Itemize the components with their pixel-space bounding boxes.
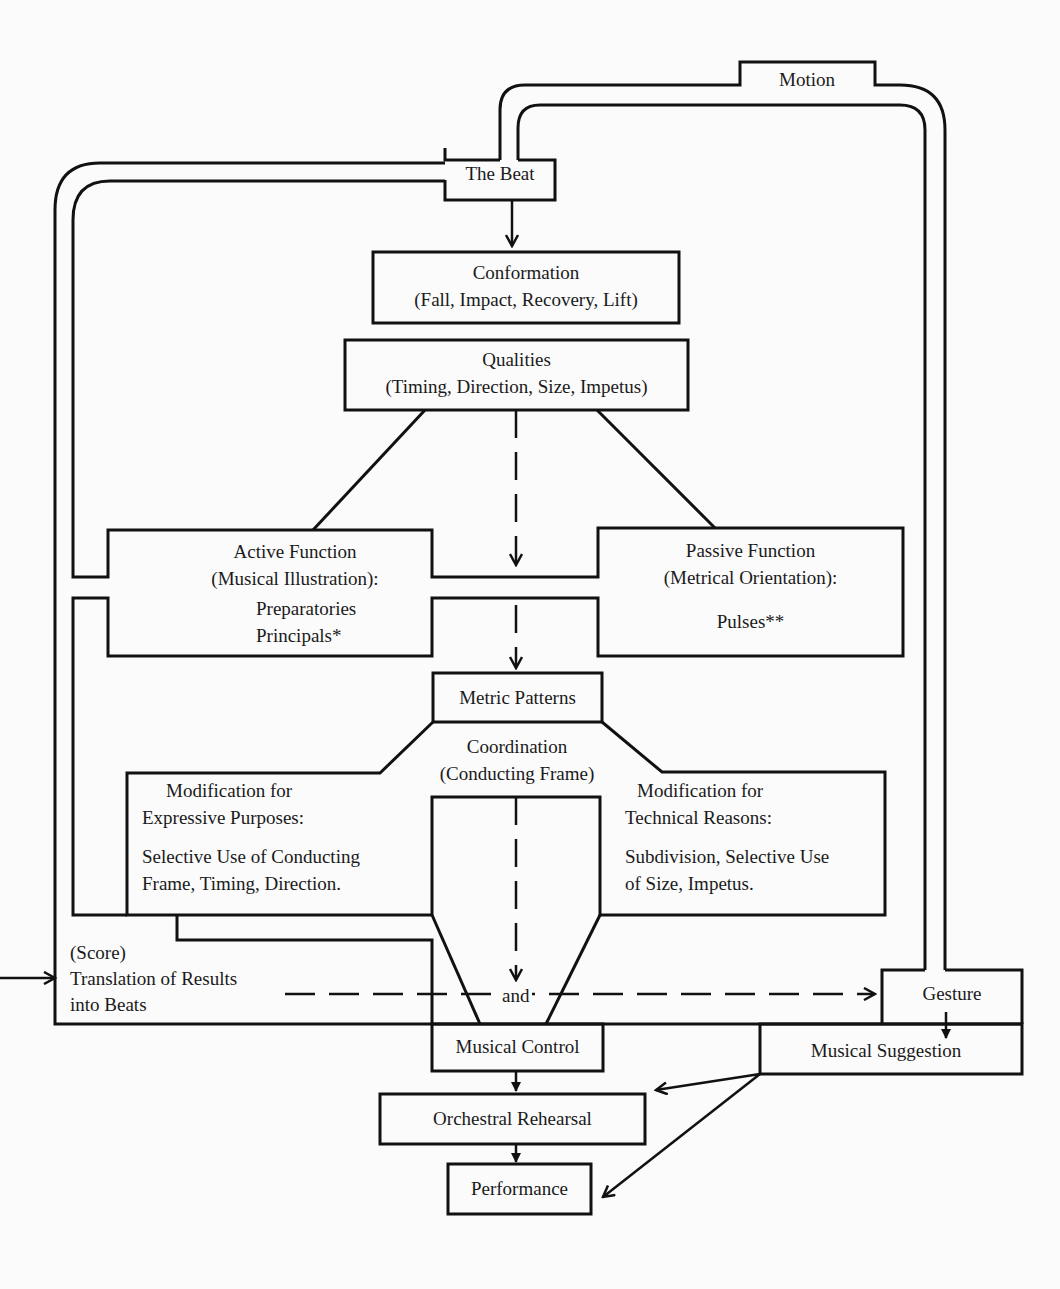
passive-item-pulses: Pulses**	[600, 608, 901, 636]
beat-label: The Beat	[447, 160, 553, 188]
active-item-preparatories: Preparatories	[256, 595, 356, 623]
score-line-2: Translation of Results	[70, 965, 237, 993]
musical-control-label: Musical Control	[434, 1033, 601, 1061]
score-line-1: (Score)	[70, 939, 126, 967]
metric-patterns-label: Metric Patterns	[435, 684, 600, 712]
score-line-3: into Beats	[70, 991, 147, 1019]
expressive-title: Modification for	[166, 777, 292, 805]
technical-title: Modification for	[637, 777, 763, 805]
orchestral-rehearsal-label: Orchestral Rehearsal	[382, 1105, 643, 1133]
motion-label: Motion	[742, 66, 872, 94]
passive-function-title: Passive Function	[600, 537, 901, 565]
musical-suggestion-label: Musical Suggestion	[762, 1037, 1010, 1065]
qualities-title: Qualities	[347, 346, 686, 374]
and-label: and	[499, 982, 532, 1010]
expressive-body-1: Selective Use of Conducting	[142, 843, 360, 871]
active-item-principals: Principals*	[256, 622, 342, 650]
technical-sub: Technical Reasons:	[625, 804, 772, 832]
expressive-sub: Expressive Purposes:	[142, 804, 304, 832]
coordination-title: Coordination	[430, 733, 604, 761]
qualities-sub: (Timing, Direction, Size, Impetus)	[347, 373, 686, 401]
gesture-label: Gesture	[884, 980, 1020, 1008]
coordination-sub: (Conducting Frame)	[430, 760, 604, 788]
technical-body-2: of Size, Impetus.	[625, 870, 754, 898]
flow-diagram-lines	[0, 0, 1060, 1289]
conformation-sub: (Fall, Impact, Recovery, Lift)	[375, 286, 677, 314]
passive-function-sub: (Metrical Orientation):	[600, 564, 901, 592]
active-function-title: Active Function	[160, 538, 430, 566]
technical-body-1: Subdivision, Selective Use	[625, 843, 829, 871]
motion-loop-outer	[500, 62, 945, 970]
performance-label: Performance	[450, 1175, 589, 1203]
conformation-title: Conformation	[375, 259, 677, 287]
active-function-sub: (Musical Illustration):	[160, 565, 430, 593]
expressive-body-2: Frame, Timing, Direction.	[142, 870, 341, 898]
